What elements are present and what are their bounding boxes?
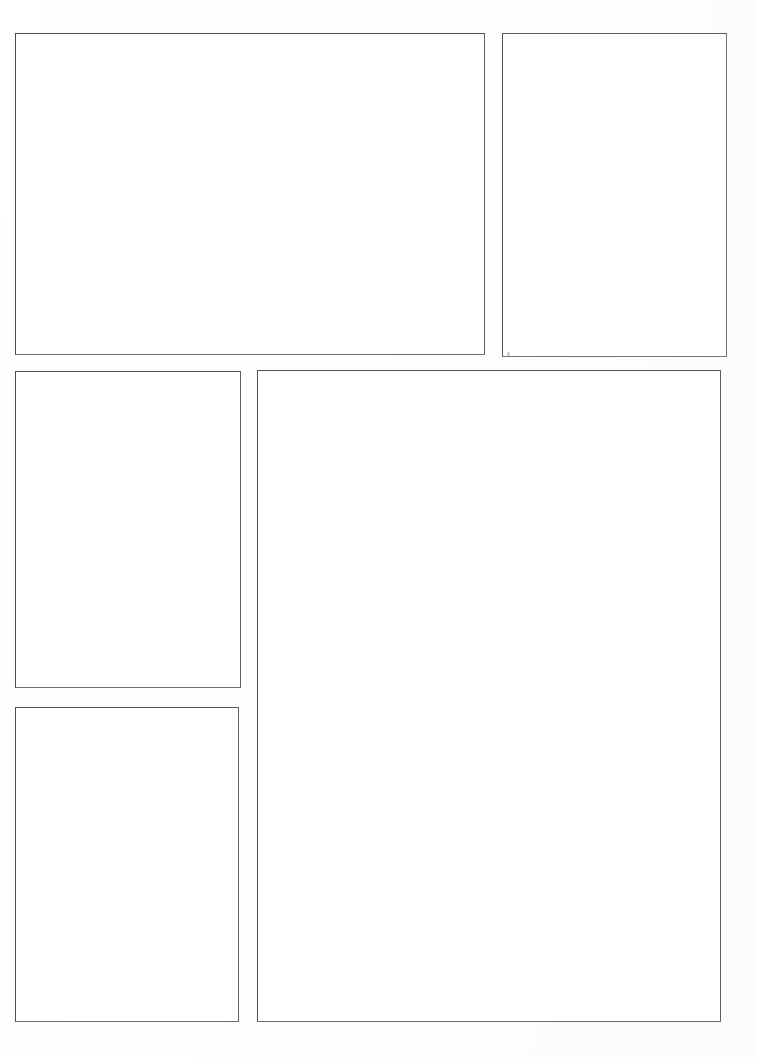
comic-panel-5[interactable] [15, 707, 239, 1022]
comic-page [0, 0, 757, 1057]
comic-panel-1[interactable] [15, 33, 485, 355]
comic-panel-1-content [16, 34, 484, 354]
comic-panel-2[interactable] [502, 33, 727, 357]
comic-panel-4[interactable] [257, 370, 721, 1022]
comic-panel-3-content [16, 372, 240, 687]
comic-panel-4-content [258, 371, 720, 1021]
comic-panel-5-content [16, 708, 238, 1021]
stray-pencil-mark [507, 352, 510, 356]
comic-panel-3[interactable] [15, 371, 241, 688]
comic-panel-2-content [503, 34, 726, 356]
